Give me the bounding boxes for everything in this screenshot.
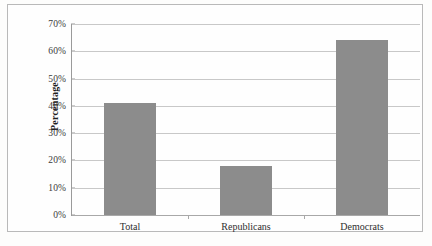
y-axis-tick-label: 40% [24, 101, 66, 111]
chart-frame: Percentage 0%10%20%30%40%50%60%70% Total… [7, 4, 423, 232]
x-axis-tick-mark [304, 215, 305, 219]
x-axis-tick-label: Democrats [340, 221, 383, 232]
y-axis-tick-label: 0% [24, 210, 66, 220]
x-axis-tick-mark [188, 215, 189, 219]
y-axis-tick-labels: 0%10%20%30%40%50%60%70% [20, 24, 66, 215]
gridline [72, 24, 420, 25]
y-axis-tick-label: 70% [24, 19, 66, 29]
x-axis-tick-label: Total [120, 221, 140, 232]
y-axis-tick-label: 20% [24, 155, 66, 165]
bar[interactable] [220, 166, 272, 215]
plot-area [72, 24, 420, 215]
x-axis-tick-label: Republicans [221, 221, 270, 232]
figure: Percentage 0%10%20%30%40%50%60%70% Total… [0, 0, 432, 246]
x-axis-tick-labels: TotalRepublicansDemocrats [72, 221, 420, 237]
y-axis-tick-label: 10% [24, 183, 66, 193]
gridline [72, 215, 420, 216]
y-axis-tick-label: 50% [24, 74, 66, 84]
bar[interactable] [104, 103, 156, 215]
bar[interactable] [336, 40, 388, 215]
y-axis-tick-label: 30% [24, 128, 66, 138]
y-axis-tick-label: 60% [24, 46, 66, 56]
